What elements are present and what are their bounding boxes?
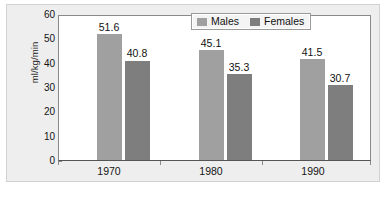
y-tick-label-10: 10 <box>33 132 55 142</box>
x-tick-label-1990: 1990 <box>283 165 343 177</box>
y-tick-label-30: 30 <box>33 83 55 93</box>
legend-item-females[interactable]: Females <box>250 16 304 27</box>
bar-label-1980-males: 45.1 <box>189 38 233 49</box>
y-tick-label-60: 60 <box>33 10 55 20</box>
bar-1990-females[interactable] <box>328 85 353 160</box>
x-tick-label-1970: 1970 <box>79 165 139 177</box>
y-tick-label-50: 50 <box>33 34 55 44</box>
x-tick-mark-left-edge <box>58 161 59 165</box>
bar-label-1990-females: 30.7 <box>318 73 362 84</box>
x-tick-mark-1 <box>160 161 161 165</box>
bar-1980-females[interactable] <box>227 74 252 160</box>
bar-label-1990-males: 41.5 <box>290 47 334 58</box>
chart-figure: ml/kg/min 60 50 40 30 20 10 0 <box>6 4 380 182</box>
y-axis-ticks: 60 50 40 30 20 10 0 <box>27 15 55 161</box>
bar-label-1980-females: 35.3 <box>217 62 261 73</box>
x-tick-mark-2 <box>262 161 263 165</box>
chart-legend[interactable]: Males Females <box>191 13 311 30</box>
bar-label-1970-females: 40.8 <box>115 48 159 59</box>
y-tick-label-0: 0 <box>33 156 55 166</box>
legend-label-females: Females <box>264 16 304 27</box>
y-tick-label-40: 40 <box>33 59 55 69</box>
plot-area: 51.6 40.8 45.1 35.3 41.5 30.7 <box>58 15 371 161</box>
scanned-page: ml/kg/min 60 50 40 30 20 10 0 <box>0 0 391 200</box>
legend-swatch-females-icon <box>250 18 260 26</box>
x-tick-mark-right-edge <box>370 161 371 165</box>
y-tick-label-20: 20 <box>33 107 55 117</box>
bar-label-1970-males: 51.6 <box>87 22 131 33</box>
x-tick-label-1980: 1980 <box>181 165 241 177</box>
legend-item-males[interactable]: Males <box>197 16 239 27</box>
bar-1970-females[interactable] <box>125 61 150 160</box>
legend-label-males: Males <box>211 16 239 27</box>
legend-swatch-males-icon <box>197 18 207 26</box>
